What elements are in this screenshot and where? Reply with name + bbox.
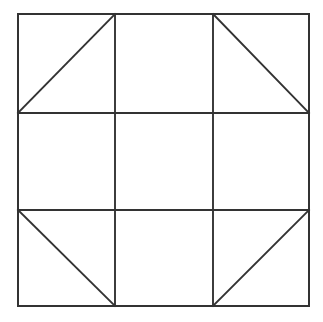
figure-background [0,0,323,322]
figure-canvas [0,0,323,322]
geometric-figure [0,0,323,322]
